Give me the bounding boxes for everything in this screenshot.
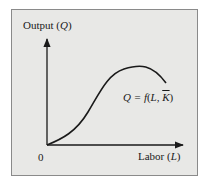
origin-label: 0 <box>38 152 44 163</box>
total-product-curve <box>47 66 166 145</box>
y-axis-label: Output (Q) <box>23 20 72 31</box>
x-axis-label: Labor (L) <box>138 151 180 162</box>
curve-label: Q = f(L, K) <box>123 92 173 103</box>
